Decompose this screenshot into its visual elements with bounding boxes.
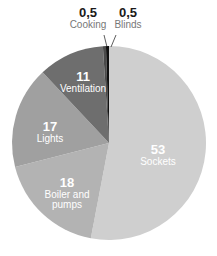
label-cooking: 0,5 Cooking [68,6,108,30]
blinds-value: 0,5 [110,6,146,20]
label-lights: 17 Lights [30,120,70,144]
leader-line [104,35,107,47]
label-sockets: 53 Sockets [135,143,181,167]
lights-value: 17 [30,120,70,134]
boiler-value: 18 [42,176,92,190]
blinds-name: Blinds [110,20,146,31]
label-boiler: 18 Boiler and pumps [42,176,92,211]
lights-name: Lights [30,134,70,145]
cooking-value: 0,5 [68,6,108,20]
sockets-value: 53 [135,143,181,157]
label-blinds: 0,5 Blinds [110,6,146,30]
ventilation-name: Ventilation [58,84,108,95]
boiler-name: Boiler and pumps [42,190,92,211]
sockets-name: Sockets [135,157,181,168]
label-ventilation: 11 Ventilation [58,70,108,94]
ventilation-value: 11 [58,70,108,84]
leader-line [111,35,116,47]
cooking-name: Cooking [68,20,108,31]
